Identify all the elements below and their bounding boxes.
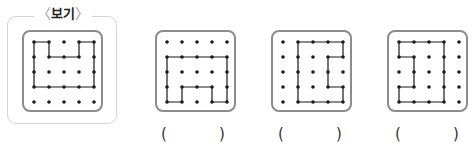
grid-dot — [427, 100, 431, 104]
grid-dot — [311, 85, 315, 89]
grid-dot — [47, 55, 51, 59]
grid-dot — [326, 70, 330, 74]
shape-outline — [167, 57, 227, 102]
grid-dot — [195, 55, 199, 59]
grid-dot — [225, 85, 229, 89]
grid-dot — [442, 85, 446, 89]
grid-dot — [326, 100, 330, 104]
grid-dot — [326, 85, 330, 89]
grid-dot — [412, 100, 416, 104]
grid-dot — [457, 70, 461, 74]
option-2-dot-grid[interactable] — [271, 30, 352, 112]
grid-dot — [32, 40, 36, 44]
shape-outline — [298, 42, 343, 102]
grid-dot — [397, 85, 401, 89]
grid-dot — [195, 40, 199, 44]
grid-dot — [427, 55, 431, 59]
grid-dot — [92, 70, 96, 74]
grid-dot — [457, 40, 461, 44]
option-2-shape-figure — [273, 32, 354, 114]
grid-dot — [210, 85, 214, 89]
grid-dot — [281, 85, 285, 89]
answer-1-open-paren: ( — [161, 124, 167, 144]
grid-dot — [412, 55, 416, 59]
grid-dot — [281, 55, 285, 59]
answer-3-open-paren: ( — [395, 124, 401, 144]
grid-dot — [62, 70, 66, 74]
grid-dot — [341, 40, 345, 44]
grid-dot — [281, 40, 285, 44]
grid-dot — [62, 40, 66, 44]
grid-dot — [180, 70, 184, 74]
grid-dot — [281, 100, 285, 104]
grid-dot — [296, 55, 300, 59]
grid-dot — [180, 40, 184, 44]
answer-1-close-paren: ) — [219, 124, 225, 144]
grid-dot — [311, 70, 315, 74]
grid-dot — [296, 85, 300, 89]
grid-dot — [32, 55, 36, 59]
grid-dot — [62, 100, 66, 104]
grid-dot — [180, 85, 184, 89]
grid-dot — [77, 55, 81, 59]
grid-dot — [311, 100, 315, 104]
grid-dot — [77, 40, 81, 44]
grid-dot — [427, 85, 431, 89]
grid-dot — [281, 70, 285, 74]
label-bracket-close: 〉 — [75, 5, 89, 21]
grid-dot — [92, 85, 96, 89]
grid-dot — [210, 55, 214, 59]
grid-dot — [77, 70, 81, 74]
shape-outline — [399, 42, 444, 102]
grid-dot — [296, 70, 300, 74]
grid-dot — [62, 55, 66, 59]
answer-3-close-paren: ) — [453, 124, 459, 144]
option-3-dot-grid[interactable] — [387, 30, 468, 112]
grid-dot — [47, 100, 51, 104]
grid-dot — [165, 70, 169, 74]
example-title: 보기 — [51, 6, 75, 21]
grid-dot — [180, 55, 184, 59]
grid-dot — [442, 70, 446, 74]
grid-dot — [32, 100, 36, 104]
grid-dot — [225, 100, 229, 104]
grid-dot — [341, 100, 345, 104]
grid-dot — [32, 70, 36, 74]
grid-dot — [442, 40, 446, 44]
answer-2-open-paren: ( — [278, 124, 284, 144]
grid-dot — [225, 40, 229, 44]
grid-dot — [412, 70, 416, 74]
grid-dot — [427, 70, 431, 74]
grid-dot — [341, 85, 345, 89]
grid-dot — [225, 55, 229, 59]
grid-dot — [397, 55, 401, 59]
grid-dot — [165, 85, 169, 89]
grid-dot — [195, 70, 199, 74]
grid-dot — [180, 100, 184, 104]
option-1-shape-figure — [157, 32, 238, 114]
grid-dot — [442, 100, 446, 104]
grid-dot — [165, 100, 169, 104]
grid-dot — [311, 55, 315, 59]
grid-dot — [326, 40, 330, 44]
grid-dot — [311, 40, 315, 44]
option-3-shape-figure — [389, 32, 470, 114]
grid-dot — [92, 40, 96, 44]
grid-dot — [77, 100, 81, 104]
grid-dot — [427, 40, 431, 44]
grid-dot — [210, 40, 214, 44]
grid-dot — [457, 85, 461, 89]
grid-dot — [92, 55, 96, 59]
grid-dot — [92, 100, 96, 104]
grid-dot — [341, 55, 345, 59]
grid-dot — [195, 100, 199, 104]
grid-dot — [457, 100, 461, 104]
grid-dot — [47, 40, 51, 44]
grid-dot — [457, 55, 461, 59]
grid-dot — [77, 85, 81, 89]
grid-dot — [412, 85, 416, 89]
option-1-dot-grid[interactable] — [155, 30, 236, 112]
grid-dot — [62, 85, 66, 89]
grid-dot — [326, 55, 330, 59]
grid-dot — [47, 85, 51, 89]
